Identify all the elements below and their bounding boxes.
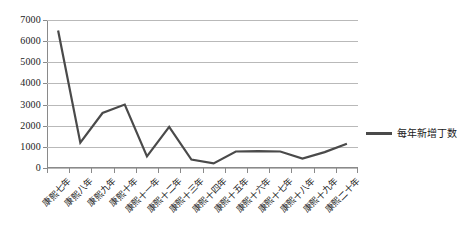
y-axis-tick-label: 4000 [0, 78, 41, 88]
y-axis-tick-label: 1000 [0, 142, 41, 152]
y-axis-tick-label: 3000 [0, 100, 41, 110]
y-axis-tick-label: 5000 [0, 57, 41, 67]
legend-label: 每年新增丁数 [397, 128, 457, 139]
x-axis-labels: 康熙七年康熙八年康熙九年康熙十年康熙十一年康熙十二年康熙十三年康熙十四年康熙十五… [0, 168, 446, 239]
y-axis-tick-label: 7000 [0, 15, 41, 25]
legend-line-swatch [366, 132, 392, 135]
y-axis-tick-label: 2000 [0, 121, 41, 131]
series-line-every-year-new-ding-count [47, 20, 358, 168]
y-axis-tick-label: 6000 [0, 36, 41, 46]
legend: 每年新增丁数 [366, 128, 457, 139]
